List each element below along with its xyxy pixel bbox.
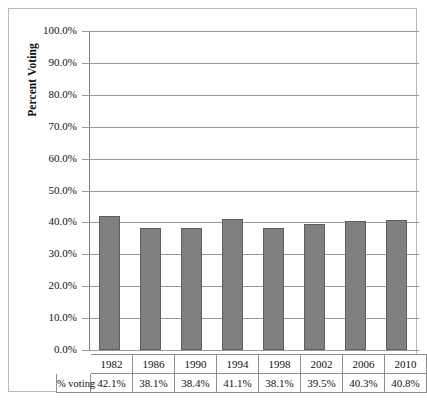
y-tick-label: 30.0% (9, 248, 77, 259)
table-year-cell: 2010 (385, 355, 427, 374)
bar-2002 (304, 224, 325, 350)
gridline (89, 191, 419, 192)
y-tick-label: 100.0% (9, 25, 77, 36)
table-year-cell: 1986 (133, 355, 175, 374)
gridline (89, 318, 419, 319)
table-value-cell: 40.8% (385, 374, 427, 393)
table-row-years: 19821986199019941998200220062010 (57, 355, 427, 374)
table-value-cell: 42.1% (91, 374, 133, 393)
gridline (89, 222, 419, 223)
table-row-label: % voting (57, 374, 91, 393)
gridline (89, 127, 419, 128)
y-tick-label: 60.0% (9, 153, 77, 164)
gridline (89, 95, 419, 96)
y-tick-mark (82, 191, 89, 192)
gridline (89, 159, 419, 160)
gridline (89, 350, 419, 351)
y-tick-mark (82, 286, 89, 287)
y-axis-ticks: 0.0%10.0%20.0%30.0%40.0%50.0%60.0%70.0%8… (9, 9, 80, 401)
y-tick-label: 50.0% (9, 185, 77, 196)
table-value-cell: 38.1% (259, 374, 301, 393)
y-tick-mark (82, 254, 89, 255)
y-tick-mark (82, 63, 89, 64)
data-table: 19821986199019941998200220062010 % votin… (56, 354, 427, 393)
y-tick-label: 90.0% (9, 57, 77, 68)
table-year-cell: 2006 (343, 355, 385, 374)
y-tick-mark (82, 222, 89, 223)
table-value-cell: 41.1% (217, 374, 259, 393)
table-year-cell: 2002 (301, 355, 343, 374)
y-tick-label: 80.0% (9, 89, 77, 100)
bar-1986 (140, 228, 161, 350)
table-value-cell: 38.4% (175, 374, 217, 393)
y-tick-mark (82, 95, 89, 96)
gridline (89, 286, 419, 287)
table-value-cell: 40.3% (343, 374, 385, 393)
table-value-cell: 38.1% (133, 374, 175, 393)
bar-1994 (222, 219, 243, 350)
y-tick-label: 40.0% (9, 216, 77, 227)
table-year-cell: 1990 (175, 355, 217, 374)
y-tick-label: 70.0% (9, 121, 77, 132)
year-row-spacer (57, 355, 91, 374)
y-tick-mark (82, 350, 89, 351)
gridline (89, 31, 419, 32)
bar-2006 (345, 221, 366, 350)
table-year-cell: 1982 (91, 355, 133, 374)
y-tick-mark (82, 318, 89, 319)
table-value-cell: 39.5% (301, 374, 343, 393)
y-tick-label: 10.0% (9, 312, 77, 323)
y-tick-mark (82, 31, 89, 32)
y-tick-mark (82, 159, 89, 160)
bar-2010 (386, 220, 407, 350)
table-year-cell: 1998 (259, 355, 301, 374)
table-row-values: % voting 42.1%38.1%38.4%41.1%38.1%39.5%4… (57, 374, 427, 393)
y-tick-mark (82, 127, 89, 128)
bar-1982 (99, 216, 120, 350)
bar-1998 (263, 228, 284, 350)
plot-area (89, 31, 419, 350)
bar-1990 (181, 228, 202, 350)
gridline (89, 254, 419, 255)
y-tick-label: 20.0% (9, 280, 77, 291)
chart-frame: Percent Voting 0.0%10.0%20.0%30.0%40.0%5… (8, 8, 417, 392)
gridline (89, 63, 419, 64)
table-year-cell: 1994 (217, 355, 259, 374)
